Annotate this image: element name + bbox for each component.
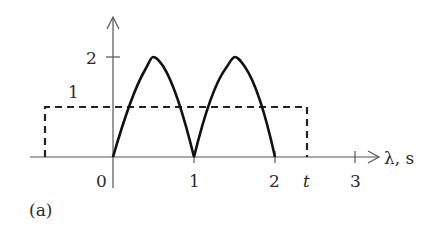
- x-tick-label-1: 1: [189, 171, 200, 191]
- x-axis-label: λ, s: [384, 148, 414, 168]
- panel-label: (a): [29, 200, 52, 220]
- x-tick-label-t: t: [303, 171, 310, 191]
- axes: [30, 17, 379, 188]
- y-tick-label-2: 2: [86, 48, 97, 68]
- x-tick-label-0: 0: [96, 171, 107, 191]
- chart-figure: 2 1 0 1 2 t 3 λ, s (a): [0, 0, 436, 237]
- x-tick-label-2: 2: [269, 171, 280, 191]
- series-rectangular-window: [45, 107, 307, 157]
- y-level-label-1: 1: [68, 82, 79, 102]
- x-tick-label-3: 3: [350, 171, 361, 191]
